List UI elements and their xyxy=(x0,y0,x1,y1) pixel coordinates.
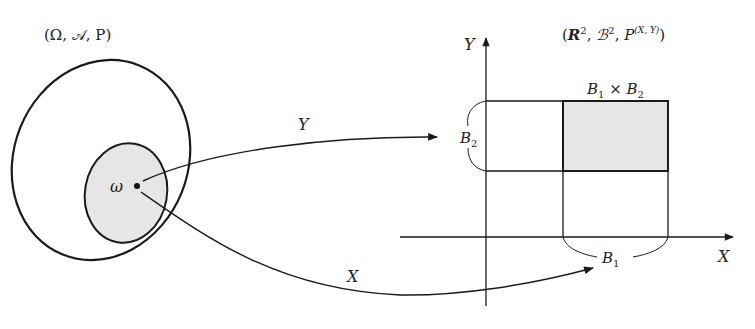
B1-bracket-right xyxy=(633,237,668,257)
map-Y-label: Y xyxy=(298,115,310,134)
omega-point xyxy=(134,183,140,189)
product-set-label: B1 × B2 xyxy=(586,80,644,100)
B2-label: B2 xyxy=(459,129,477,149)
B1-label: B1 xyxy=(601,249,619,269)
B2-bracket-lower xyxy=(468,148,486,171)
product-set-rect xyxy=(563,101,668,171)
random-vector-diagram: (Ω, 𝒜, P) ω Y X (R2, ℬ2, P(X, Y)) Y X B1… xyxy=(0,0,755,329)
image-space-label: (R2, ℬ2, P(X, Y)) xyxy=(562,25,665,44)
map-X-label: X xyxy=(345,267,359,286)
x-axis-label: X xyxy=(716,247,730,266)
preimage-ellipse xyxy=(77,137,175,250)
B1-bracket-left xyxy=(563,237,597,257)
omega-label: ω xyxy=(110,177,123,196)
sample-space-label: (Ω, 𝒜, P) xyxy=(44,26,111,44)
y-axis-label: Y xyxy=(464,35,476,54)
B2-bracket-upper xyxy=(468,101,486,126)
map-X-arrow xyxy=(141,192,593,295)
